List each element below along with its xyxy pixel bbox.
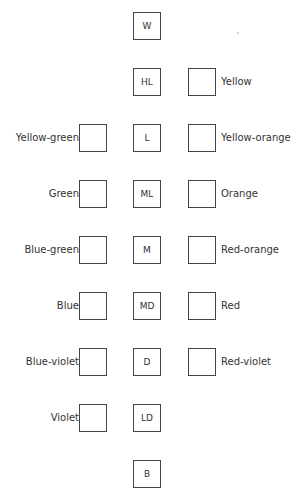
hue-label-orange: Orange: [221, 180, 258, 208]
hue-box-red-violet: [188, 348, 216, 376]
hue-label-red: Red: [221, 292, 240, 320]
hue-box-red-orange: [188, 236, 216, 264]
hue-label-blue-green: Blue-green: [24, 236, 79, 264]
hue-box-yellow-orange: [188, 124, 216, 152]
hue-label-green: Green: [49, 180, 79, 208]
hue-label-yellow-orange: Yellow-orange: [221, 124, 291, 152]
hue-box-blue: [79, 292, 107, 320]
hue-box-blue-violet: [79, 348, 107, 376]
value-box-b: B: [133, 460, 161, 488]
value-box-ld: LD: [133, 404, 161, 432]
hue-box-red: [188, 292, 216, 320]
hue-box-yellow-green: [79, 124, 107, 152]
hue-label-yellow-green: Yellow-green: [16, 124, 79, 152]
hue-box-yellow: [188, 68, 216, 96]
value-box-w: W: [133, 12, 161, 40]
value-box-hl: HL: [133, 68, 161, 96]
hue-box-green: [79, 180, 107, 208]
hue-label-blue: Blue: [57, 292, 79, 320]
hue-label-yellow: Yellow: [221, 68, 252, 96]
hue-box-violet: [79, 404, 107, 432]
value-box-l: L: [133, 124, 161, 152]
value-box-m: M: [133, 236, 161, 264]
value-box-ml: ML: [133, 180, 161, 208]
scan-speck: [237, 32, 239, 34]
hue-box-blue-green: [79, 236, 107, 264]
value-box-md: MD: [133, 292, 161, 320]
hue-label-blue-violet: Blue-violet: [26, 348, 79, 376]
hue-label-red-violet: Red-violet: [221, 348, 271, 376]
hue-box-orange: [188, 180, 216, 208]
hue-label-violet: Violet: [51, 404, 79, 432]
hue-label-red-orange: Red-orange: [221, 236, 279, 264]
value-box-d: D: [133, 348, 161, 376]
